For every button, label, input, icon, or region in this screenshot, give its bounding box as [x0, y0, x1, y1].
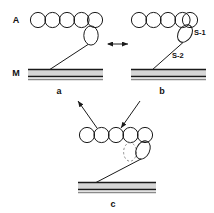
figure-canvas: a A M S-1 S-2 b: [0, 0, 214, 213]
actin-filament-c: [79, 127, 152, 142]
s1-head-a: [84, 26, 98, 45]
myosin-filament-b: [131, 69, 206, 80]
s1-label: S-1: [194, 28, 206, 37]
panel-a: a: [28, 12, 103, 96]
panel-label-b: b: [159, 86, 165, 96]
s2-arm-a: [49, 45, 88, 71]
myosin-filament-c: [78, 182, 156, 193]
panel-b: S-1 S-2 b: [131, 12, 206, 96]
s2-label: S-2: [172, 51, 184, 60]
s2-arm-c: [95, 159, 141, 183]
panel-c: c: [78, 127, 156, 209]
actin-filament-b: [131, 12, 197, 27]
myosin-axis-label: M: [12, 68, 20, 78]
arrow-b-to-c: [121, 101, 140, 128]
actin-axis-label: A: [13, 15, 20, 25]
myosin-filament-a: [28, 69, 103, 80]
s1-head-ghost-c: [124, 143, 137, 161]
arrow-a-to-c: [78, 101, 97, 128]
actin-filament-a: [30, 12, 102, 27]
cross-bridge-diagram: a A M S-1 S-2 b: [0, 0, 214, 213]
panel-label-c: c: [110, 199, 115, 209]
panel-label-a: a: [56, 86, 62, 96]
